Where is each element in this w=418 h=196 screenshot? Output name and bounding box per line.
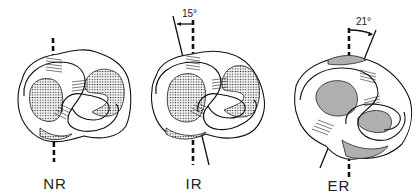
angle-label-ir: 15° xyxy=(182,8,197,19)
caption-nr: NR xyxy=(43,175,67,192)
panel-ir: 15° IR xyxy=(152,8,265,192)
panel-nr: NR xyxy=(18,38,131,192)
medial-compartment xyxy=(167,74,205,122)
arrowhead-icon xyxy=(177,22,181,26)
caption-ir: IR xyxy=(186,175,203,192)
rotation-diagram: NR 15° IR 21° xyxy=(0,0,418,196)
angle-label-er: 21° xyxy=(356,16,371,27)
panel-er: 21° ER xyxy=(295,16,412,194)
caption-er: ER xyxy=(328,177,351,194)
